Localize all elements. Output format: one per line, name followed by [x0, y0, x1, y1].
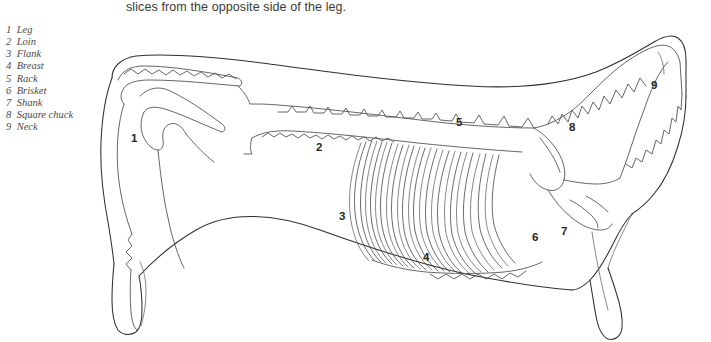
shank-bone-line — [592, 232, 608, 310]
callout-2-loin: 2 — [316, 142, 322, 154]
callout-5-rack: 5 — [456, 117, 462, 129]
spinous-processes — [278, 106, 534, 128]
shoulder-blade-wing — [564, 178, 620, 184]
scapula-outline — [530, 128, 565, 191]
femur-shaft — [158, 150, 184, 268]
rib-inner — [444, 151, 469, 273]
hip-socket-detail — [117, 104, 132, 234]
pelvis-outline — [118, 66, 242, 104]
brisket-outline — [572, 214, 632, 290]
sacrum-crest — [124, 69, 236, 79]
spine-group — [238, 86, 534, 154]
rump-inner-contour — [126, 234, 132, 270]
shoulder-joint-detail — [570, 200, 598, 228]
callout-8-square-chuck: 8 — [569, 122, 575, 134]
callout-1-leg: 1 — [131, 133, 137, 145]
rib-cage-group — [349, 140, 542, 279]
humerus — [548, 190, 612, 230]
cranial-outline — [632, 96, 686, 214]
hind-cannon-bone — [130, 270, 137, 330]
carcass-diagram — [0, 0, 711, 342]
callout-3-flank: 3 — [339, 211, 345, 223]
callout-6-brisket: 6 — [532, 232, 538, 244]
loin-transverse-processes — [262, 133, 394, 142]
carcass-outline-svg — [0, 0, 711, 342]
callout-9-neck: 9 — [651, 80, 657, 92]
hind-leg-outline — [112, 264, 142, 334]
ilium-wing — [140, 88, 225, 132]
cervical-vertebrae-upper — [534, 50, 646, 128]
loin-front-joint — [244, 138, 252, 154]
pelvis-bone-group — [117, 66, 241, 330]
costal-cartilage-wave — [430, 271, 526, 279]
cervical-vertebrae-lower — [620, 62, 668, 178]
callout-7-shank: 7 — [561, 226, 567, 238]
elbow-detail — [586, 196, 608, 212]
dorsal-outline — [112, 36, 686, 96]
fore-leg-inner-line — [608, 214, 632, 268]
aitch-bone — [141, 112, 186, 150]
femur-head — [186, 134, 214, 162]
neck-group — [534, 45, 682, 178]
neck-lower-notches — [626, 94, 682, 168]
scapula-spine — [540, 138, 560, 172]
caudal-outline — [101, 78, 114, 264]
shoulder-group — [530, 128, 620, 310]
vertebrae-upper-line — [238, 86, 534, 128]
cervical-processes — [548, 78, 646, 124]
rib — [492, 155, 515, 263]
rib — [478, 154, 502, 268]
callout-4-breast: 4 — [423, 252, 429, 264]
